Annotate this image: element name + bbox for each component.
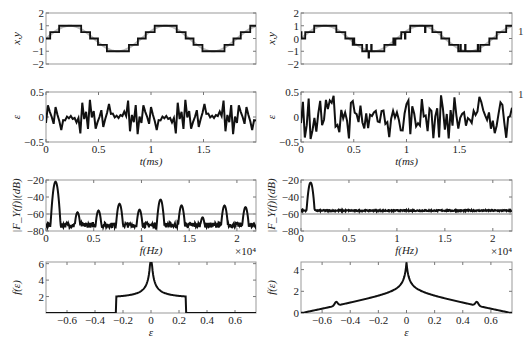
right-pdf-axes: 024−0.6−0.4−0.200.20.40.6f(ε)ε [265,262,512,338]
svg-text:−0.6: −0.6 [312,314,332,326]
svg-text:2: 2 [294,285,300,297]
svg-text:2: 2 [39,7,45,19]
svg-text:0.5: 0.5 [347,143,361,155]
svg-text:|F_Y(f)|(dB): |F_Y(f)|(dB) [10,178,23,233]
svg-text:2: 2 [294,7,300,19]
svg-text:0.2: 0.2 [172,314,186,326]
svg-text:t(ms): t(ms) [140,155,163,168]
svg-text:t(ms): t(ms) [395,155,418,168]
svg-text:0: 0 [148,314,154,326]
left-xy-axes: −2−1012x,y [10,7,256,70]
svg-text:−0.6: −0.6 [57,314,77,326]
svg-text:0.5: 0.5 [30,86,44,98]
svg-text:ε: ε [265,114,277,119]
svg-text:f(Hz): f(Hz) [395,244,418,257]
svg-text:x,y: x,y [10,32,22,46]
svg-text:−1: −1 [32,45,44,57]
svg-text:−60: −60 [27,208,45,220]
svg-text:0.2: 0.2 [428,314,442,326]
svg-text:2: 2 [490,232,496,244]
left-pdf-line [46,262,256,313]
svg-text:0.5: 0.5 [285,86,299,98]
svg-text:−2: −2 [32,58,44,70]
svg-text:0: 0 [294,33,300,45]
svg-text:f(ε): f(ε) [265,280,278,295]
svg-text:−80: −80 [282,225,300,237]
svg-text:|F_Y(f)|(dB): |F_Y(f)|(dB) [265,178,278,233]
svg-text:f(ε): f(ε) [10,280,23,295]
side-mark-2: 1 [518,88,524,100]
svg-text:0: 0 [298,232,304,244]
right-pdf-line [301,262,512,313]
svg-text:−40: −40 [27,191,45,203]
svg-text:0: 0 [294,111,300,123]
svg-text:1: 1 [39,20,45,32]
svg-text:0: 0 [298,143,304,155]
left-error-axes: −0.500.500.511.5εt(ms) [10,86,256,168]
svg-text:0: 0 [404,314,410,326]
svg-text:1: 1 [294,20,300,32]
left-xy-line [46,26,256,52]
svg-text:0.5: 0.5 [342,232,356,244]
svg-text:1.5: 1.5 [452,143,466,155]
right-xy-axes: −2−1012x,y [265,7,512,70]
svg-text:1.5: 1.5 [197,143,211,155]
svg-text:0: 0 [43,232,49,244]
svg-text:×10⁴: ×10⁴ [491,245,512,257]
svg-text:1: 1 [404,143,410,155]
svg-text:−0.4: −0.4 [85,314,105,326]
svg-text:1: 1 [148,143,154,155]
left-error-line [46,100,256,134]
svg-text:4: 4 [39,274,45,286]
svg-text:−2: −2 [287,58,299,70]
svg-text:ε: ε [10,114,22,119]
svg-text:−0.5: −0.5 [279,136,299,148]
svg-text:−0.2: −0.2 [113,314,133,326]
svg-text:0.4: 0.4 [456,314,470,326]
svg-text:x,y: x,y [265,32,277,46]
svg-text:0: 0 [39,111,45,123]
svg-text:0: 0 [294,307,300,319]
svg-text:ε: ε [404,326,409,338]
right-spectrum-axes: −80−60−40−2000.511.52|F_Y(f)|(dB)f(Hz)×1… [265,174,512,257]
svg-text:2: 2 [39,291,45,303]
svg-text:0.6: 0.6 [228,314,242,326]
right-spectrum-line [301,183,512,212]
side-mark-1: 1 [518,25,524,37]
svg-text:−0.4: −0.4 [340,314,360,326]
svg-text:1: 1 [139,232,145,244]
svg-text:−1: −1 [287,45,299,57]
svg-text:−60: −60 [282,208,300,220]
svg-text:−20: −20 [27,174,45,186]
svg-text:0.5: 0.5 [92,143,106,155]
svg-text:0: 0 [43,143,49,155]
svg-text:−40: −40 [282,191,300,203]
figure: −2−1012x,y−2−1012x,y−0.500.500.511.5εt(m… [0,0,528,339]
svg-text:0.5: 0.5 [87,232,101,244]
svg-text:−20: −20 [282,174,300,186]
svg-text:0.6: 0.6 [484,314,498,326]
svg-text:ε: ε [149,326,154,338]
svg-text:f(Hz): f(Hz) [140,244,163,257]
svg-text:1: 1 [394,232,400,244]
svg-text:6: 6 [39,258,45,270]
svg-text:0: 0 [39,33,45,45]
right-error-line [301,95,512,139]
right-error-axes: −0.500.500.511.5εt(ms) [265,86,512,168]
left-pdf-axes: 246−0.6−0.4−0.200.20.40.6f(ε)ε [10,258,256,338]
svg-text:2: 2 [234,232,240,244]
svg-text:−0.5: −0.5 [24,136,44,148]
svg-text:−80: −80 [27,225,45,237]
left-spectrum-axes: −80−60−40−2000.511.52|F_Y(f)|(dB)f(Hz)×1… [10,174,256,257]
svg-text:−0.2: −0.2 [368,314,388,326]
left-spectrum-line [46,182,256,228]
svg-text:×10⁴: ×10⁴ [235,245,256,257]
svg-text:0.4: 0.4 [200,314,214,326]
svg-text:4: 4 [294,264,300,276]
svg-text:1.5: 1.5 [438,232,452,244]
svg-text:1.5: 1.5 [182,232,196,244]
